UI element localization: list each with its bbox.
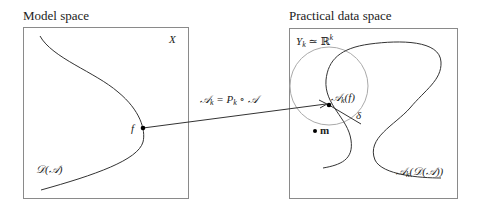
curve-arg: (𝒟(𝒜)) [410, 165, 444, 177]
point-f [141, 126, 146, 131]
image-point-label: 𝒜k(f) [331, 91, 355, 105]
mapping-rhs-tail: ∘ 𝒜 [237, 93, 258, 105]
image-main: 𝒜 [331, 91, 341, 103]
space-label-y: Yk ≃ ℝk [296, 33, 333, 49]
image-curve-label: 𝒜k(𝒟(𝒜)) [396, 165, 443, 179]
mapping-label: 𝒜k = Pk ∘ 𝒜 [200, 93, 258, 107]
mapping-lhs: 𝒜 [200, 93, 210, 105]
mapping-arrow [143, 104, 326, 128]
curve-main: 𝒜 [396, 165, 406, 177]
radius-label: δ [356, 109, 361, 121]
image-arg: (f) [345, 91, 355, 103]
model-space-title: Model space [23, 8, 89, 24]
y-rel: ≃ ℝ [306, 35, 330, 47]
mapping-eq: = P [214, 93, 234, 105]
curve-label-d: 𝒟(𝒜) [36, 163, 62, 176]
point-m [313, 129, 317, 133]
data-space-title: Practical data space [289, 8, 392, 24]
point-label-f: f [131, 122, 134, 134]
y-sup: k [330, 33, 334, 42]
center-label-m: m [320, 124, 329, 136]
space-label-x: X [169, 33, 176, 45]
